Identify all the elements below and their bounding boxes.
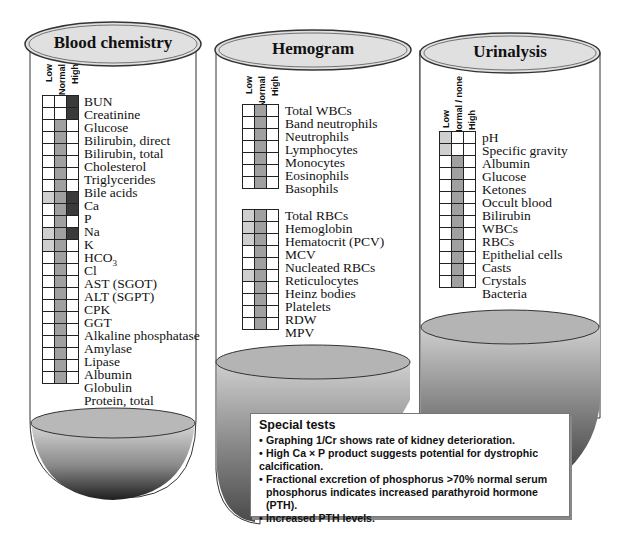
grid-cell <box>464 228 476 240</box>
grid-cell <box>243 234 255 246</box>
grid-cell <box>243 294 255 306</box>
grid-row <box>43 276 79 288</box>
grid-cell <box>267 318 279 330</box>
grid-row <box>243 270 279 282</box>
grid-cell <box>55 216 67 228</box>
grid-cell <box>243 258 255 270</box>
blood-chemistry-title: Blood chemistry <box>28 33 198 53</box>
grid-cell <box>43 204 55 216</box>
bc-col-high: High <box>70 64 80 84</box>
grid-cell <box>464 252 476 264</box>
grid-cell <box>243 282 255 294</box>
grid-cell <box>440 240 452 252</box>
grid-cell <box>67 228 79 240</box>
grid-row <box>440 132 476 144</box>
grid-cell <box>67 192 79 204</box>
grid-row <box>43 204 79 216</box>
hemogram-wbc-labels: Total WBCsBand neutrophilsNeutrophilsLym… <box>285 104 378 195</box>
grid-cell <box>243 246 255 258</box>
grid-cell <box>55 324 67 336</box>
grid-cell <box>67 120 79 132</box>
grid-cell <box>243 129 255 141</box>
grid-cell <box>267 141 279 153</box>
grid-row <box>243 282 279 294</box>
urinalysis-title: Urinalysis <box>420 42 600 62</box>
grid-cell <box>55 96 67 108</box>
grid-cell <box>267 210 279 222</box>
grid-cell <box>464 240 476 252</box>
grid-cell <box>67 108 79 120</box>
grid-cell <box>267 177 279 189</box>
grid-cell <box>43 348 55 360</box>
special-test-item: •Fractional excretion of phosphorus >70%… <box>259 473 569 486</box>
grid-cell <box>67 312 79 324</box>
row-label: Na <box>84 225 200 238</box>
grid-cell <box>452 276 464 288</box>
grid-cell <box>452 144 464 156</box>
grid-cell <box>440 216 452 228</box>
grid-cell <box>43 324 55 336</box>
grid-cell <box>267 234 279 246</box>
grid-cell <box>255 105 267 117</box>
grid-cell <box>243 177 255 189</box>
grid-row <box>243 306 279 318</box>
grid-cell <box>452 204 464 216</box>
grid-cell <box>43 144 55 156</box>
grid-cell <box>267 294 279 306</box>
row-label: HCO3 <box>84 251 200 264</box>
grid-cell <box>255 165 267 177</box>
blood-chemistry-labels: BUNCreatinineGlucoseBilirubin, directBil… <box>84 95 200 407</box>
grid-cell <box>255 270 267 282</box>
hemogram-rbc-labels: Total RBCsHemoglobinHematocrit (PCV)MCVN… <box>285 209 384 339</box>
grid-cell <box>55 204 67 216</box>
grid-cell <box>43 108 55 120</box>
grid-cell <box>440 156 452 168</box>
grid-cell <box>452 192 464 204</box>
hg-col-high: High <box>270 76 280 96</box>
grid-cell <box>43 276 55 288</box>
grid-row <box>440 228 476 240</box>
grid-row <box>43 108 79 120</box>
grid-cell <box>464 264 476 276</box>
ua-col-high: High <box>467 110 477 130</box>
grid-cell <box>67 324 79 336</box>
bc-col-normal: Normal <box>57 64 67 95</box>
grid-cell <box>67 252 79 264</box>
grid-row <box>243 234 279 246</box>
grid-cell <box>255 222 267 234</box>
grid-cell <box>67 144 79 156</box>
grid-cell <box>267 246 279 258</box>
grid-row <box>43 144 79 156</box>
grid-row <box>243 294 279 306</box>
special-test-item: •Increased PTH levels. <box>259 512 569 525</box>
grid-cell <box>43 156 55 168</box>
hemogram-rbc-grid <box>242 209 279 330</box>
grid-cell <box>43 372 55 384</box>
grid-cell <box>267 222 279 234</box>
grid-row <box>243 129 279 141</box>
grid-cell <box>67 204 79 216</box>
grid-row <box>440 156 476 168</box>
grid-cell <box>43 288 55 300</box>
grid-cell <box>43 300 55 312</box>
grid-cell <box>55 144 67 156</box>
grid-cell <box>67 168 79 180</box>
grid-cell <box>43 180 55 192</box>
grid-cell <box>43 228 55 240</box>
grid-cell <box>452 132 464 144</box>
grid-cell <box>267 129 279 141</box>
grid-cell <box>43 240 55 252</box>
grid-cell <box>267 258 279 270</box>
grid-cell <box>43 312 55 324</box>
grid-row <box>43 216 79 228</box>
grid-cell <box>255 234 267 246</box>
grid-row <box>43 168 79 180</box>
special-tests-box: Special tests •Graphing 1/Cr shows rate … <box>250 413 570 517</box>
grid-cell <box>55 108 67 120</box>
special-test-item: •Graphing 1/Cr shows rate of kidney dete… <box>259 434 569 447</box>
grid-cell <box>43 360 55 372</box>
grid-cell <box>55 312 67 324</box>
grid-cell <box>464 144 476 156</box>
grid-cell <box>452 264 464 276</box>
grid-cell <box>243 222 255 234</box>
